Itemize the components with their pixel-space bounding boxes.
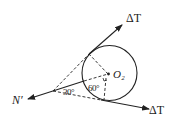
- tension-bottom-arrow: [101, 100, 149, 109]
- label-tension-bottom: ΔT: [149, 104, 164, 116]
- force-diagram: ΔT ΔT N′ O₂ 30° 60°: [0, 0, 173, 132]
- center-dot: [107, 73, 110, 76]
- dashed-center-to-top-tangent: [89, 54, 108, 74]
- label-angle-60: 60°: [88, 84, 99, 93]
- label-normal-force: N′: [12, 94, 23, 106]
- tension-top-arrow: [89, 25, 122, 54]
- dashed-vertex-to-center: [84, 74, 108, 81]
- label-angle-30: 30°: [63, 88, 74, 97]
- diagram-canvas: [0, 0, 173, 132]
- normal-force-arrow: [28, 81, 84, 99]
- label-center-o2: O₂: [113, 69, 125, 80]
- label-tension-top: ΔT: [126, 12, 141, 24]
